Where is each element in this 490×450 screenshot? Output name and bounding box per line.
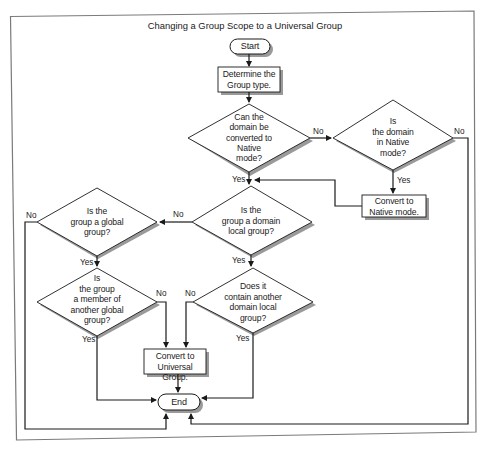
global-group-label-line: group a global (57, 217, 137, 228)
in-native-label-line: Is (358, 116, 428, 127)
member-global-label-line: Is (57, 273, 137, 284)
convert-universal-label-line: Universal Group. (144, 362, 206, 383)
in-native-label-line: mode? (358, 148, 428, 159)
global-group-label: Is the group a global group? (57, 206, 137, 238)
convert-native-label: Convert to Native mode. (362, 196, 426, 217)
convert-native-label-line: Convert to (362, 196, 426, 207)
member-global-label-line: group? (57, 315, 137, 326)
domain-local-yes-label: Yes (232, 256, 245, 266)
member-global-yes-label: Yes (82, 335, 95, 345)
member-global-no-label: No (156, 289, 166, 299)
in-native-label-line: the domain (358, 127, 428, 138)
end-label: End (158, 397, 200, 408)
member-global-label: Is the group a member of another global … (57, 273, 137, 326)
contain-local-no-label: No (185, 289, 195, 299)
determine-label: Determine the Group type. (218, 69, 280, 90)
in-native-yes-label: Yes (397, 176, 410, 186)
member-global-label-line: another global (57, 305, 137, 316)
contain-local-yes-label: Yes (236, 334, 249, 344)
can-convert-yes-label: Yes (232, 175, 245, 185)
domain-local-label-line: group a domain (211, 216, 291, 227)
in-native-label: Is the domain in Native mode? (358, 116, 428, 158)
in-native-no-label: No (454, 127, 464, 137)
member-global-label-line: a member of (57, 294, 137, 305)
convert-universal-label-line: Convert to (144, 351, 206, 362)
in-native-label-line: in Native (358, 137, 428, 148)
domain-local-label: Is the group a domain local group? (211, 205, 291, 237)
edge-contain-local-no (186, 302, 193, 347)
member-global-label-line: the group (57, 284, 137, 295)
convert-universal-label: Convert to Universal Group. (144, 351, 206, 383)
contain-local-label-line: group? (213, 313, 293, 324)
convert-native-label-line: Native mode. (362, 207, 426, 218)
can-convert-label: Can the domain be converted to Native mo… (214, 112, 284, 163)
can-convert-no-label: No (313, 127, 323, 137)
global-group-yes-label: Yes (80, 258, 93, 268)
can-convert-label-line: Native (214, 143, 284, 153)
edge-member-global-no (157, 302, 166, 347)
contain-local-label-line: contain another (213, 292, 293, 303)
diagram-title: Changing a Group Scope to a Universal Gr… (0, 20, 490, 31)
can-convert-label-line: mode? (214, 153, 284, 163)
can-convert-label-line: Can the (214, 112, 284, 122)
global-group-label-line: group? (57, 227, 137, 238)
determine-label-line: Group type. (218, 80, 280, 91)
domain-local-label-line: Is the (211, 205, 291, 216)
can-convert-label-line: domain be (214, 122, 284, 132)
contain-local-label-line: domain local (213, 302, 293, 313)
contain-local-label: Does it contain another domain local gro… (213, 281, 293, 323)
global-group-no-label: No (26, 211, 36, 221)
contain-local-label-line: Does it (213, 281, 293, 292)
start-label: Start (230, 41, 270, 52)
domain-local-label-line: local group? (211, 226, 291, 237)
global-group-label-line: Is the (57, 206, 137, 217)
determine-label-line: Determine the (218, 69, 280, 80)
domain-local-no-label: No (173, 210, 183, 220)
can-convert-label-line: converted to (214, 133, 284, 143)
